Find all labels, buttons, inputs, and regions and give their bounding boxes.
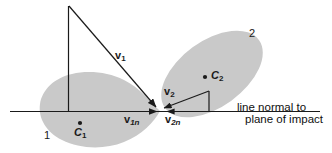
caption-line-1: line normal to [237, 101, 306, 113]
v2-label-subscript: 2 [170, 90, 174, 99]
v1-label-subscript: 1 [121, 54, 125, 63]
v2-label: v2 [164, 86, 175, 99]
v1n-label-subscript: 1n [130, 118, 139, 127]
body-1-number-label: 1 [44, 130, 50, 142]
v2n-label-subscript: 2n [171, 118, 180, 127]
caption-line-2: plane of impact [237, 113, 323, 125]
centroid-2-symbol: C [211, 69, 219, 81]
v1-label: v1 [115, 50, 126, 63]
v2n-label: v2n [165, 114, 180, 127]
centroid-2-dot [203, 75, 207, 79]
body-1-shape [40, 72, 160, 147]
normal-line-caption: line normal to plane of impact [237, 101, 323, 125]
centroid-1-symbol: C [74, 126, 82, 138]
impact-diagram-figure: v1 v1n v2 v2n 1 2 C1 C2 line normal to p… [0, 0, 332, 153]
centroid-2-label: C2 [211, 70, 223, 83]
body-2-number-label: 2 [249, 28, 255, 40]
v1n-label: v1n [124, 114, 139, 127]
centroid-1-label: C1 [74, 127, 86, 140]
centroid-2-subscript: 2 [219, 74, 223, 83]
centroid-1-dot [78, 121, 82, 125]
centroid-1-subscript: 1 [82, 131, 86, 140]
